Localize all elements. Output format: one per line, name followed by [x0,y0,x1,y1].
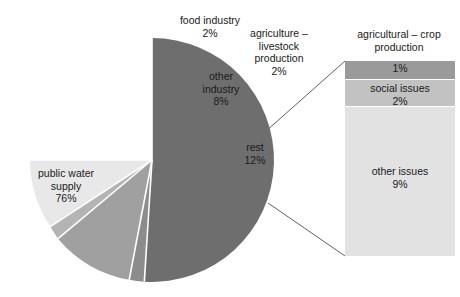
chart-canvas: food industry 2% agriculture – livestock… [0,0,460,297]
callout-line-bottom [268,203,345,256]
pie-label-other-industry: other industry 8% [190,70,252,108]
bar-label-agricultural-crop-production: 1% [345,62,455,75]
breakout-bar-title: agricultural – crop production [336,28,460,53]
bar-label-social-issues: social issues 2% [345,82,455,107]
pie-label-public-water-supply: public water supply 76% [12,167,120,205]
bar-label-other-issues: other issues 9% [345,165,455,190]
pie-label-rest: rest 12% [228,141,282,166]
